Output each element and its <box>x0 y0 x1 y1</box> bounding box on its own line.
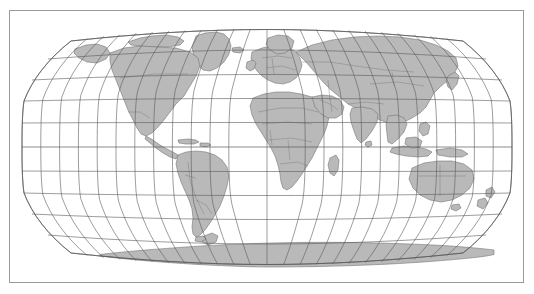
world-map-canvas[interactable] <box>0 0 534 294</box>
world-map-figure <box>0 0 534 294</box>
land-caribbean <box>178 139 199 144</box>
